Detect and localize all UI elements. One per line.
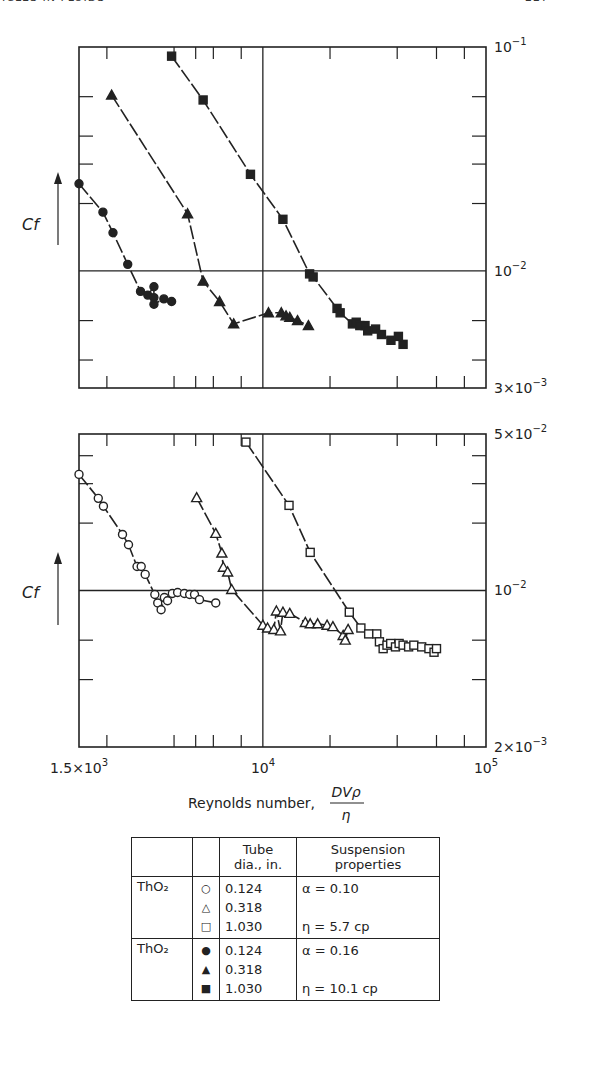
circle-marker-icon xyxy=(124,260,132,268)
legend-header-symbol xyxy=(193,838,220,877)
open-triangle-icon: △ xyxy=(198,898,214,917)
circle-marker-icon xyxy=(151,590,159,598)
square-marker-icon xyxy=(285,501,293,509)
legend-header-material xyxy=(132,838,193,877)
square-marker-icon xyxy=(168,52,176,60)
triangle-marker-icon xyxy=(217,548,227,557)
series-open-triangle xyxy=(192,493,353,645)
triangle-marker-icon xyxy=(192,493,202,502)
square-marker-icon xyxy=(365,630,373,638)
bottom-panel xyxy=(75,434,486,747)
y-axis-label: Cf xyxy=(22,583,41,602)
triangle-marker-icon xyxy=(183,209,193,218)
marker-symbols: ● ▲ ■ xyxy=(193,939,220,1001)
circle-marker-icon xyxy=(75,470,83,478)
legend-header-diameter: Tube dia., in. xyxy=(220,838,297,877)
circle-marker-icon xyxy=(119,530,127,538)
x-tick-label: 104 xyxy=(251,757,275,776)
circle-marker-icon xyxy=(125,541,133,549)
circle-marker-icon xyxy=(99,502,107,510)
legend-header-properties: Suspension properties xyxy=(297,838,440,877)
triangle-marker-icon xyxy=(343,624,353,633)
square-marker-icon xyxy=(246,170,254,178)
circle-marker-icon xyxy=(75,180,83,188)
y-tick-label: 10−1 xyxy=(494,36,527,55)
square-marker-icon xyxy=(279,215,287,223)
square-marker-icon xyxy=(336,309,344,317)
square-marker-icon xyxy=(394,332,402,340)
series-filled-circle xyxy=(75,180,176,308)
y-tick-label: 5×10−2 xyxy=(494,423,547,442)
top-panel xyxy=(75,47,486,388)
y-axis-label: Cf xyxy=(22,215,41,234)
suspension-properties: α = 0.10 η = 5.7 cp xyxy=(297,877,440,939)
circle-marker-icon xyxy=(157,606,165,614)
square-marker-icon xyxy=(373,630,381,638)
triangle-marker-icon xyxy=(211,528,221,537)
circle-marker-icon xyxy=(109,229,117,237)
y-tick-label: 2×10−3 xyxy=(494,736,547,755)
series-filled-square xyxy=(168,52,407,348)
square-marker-icon xyxy=(399,340,407,348)
square-marker-icon xyxy=(345,608,353,616)
material-label: ThO₂ xyxy=(132,877,193,939)
open-square-icon: □ xyxy=(198,917,214,936)
circle-marker-icon xyxy=(94,494,102,502)
filled-circle-icon: ● xyxy=(198,941,214,960)
circle-marker-icon xyxy=(164,597,172,605)
x-axis-fraction-numerator: DVρ xyxy=(331,784,360,800)
y-tick-label: 3×10−3 xyxy=(494,377,547,396)
circle-marker-icon xyxy=(137,562,145,570)
square-marker-icon xyxy=(199,96,207,104)
open-circle-icon: ○ xyxy=(198,879,214,898)
material-label: ThO₂ xyxy=(132,939,193,1001)
circle-marker-icon xyxy=(150,283,158,291)
friction-factor-chart: 10−110−23×10−35×10−210−22×10−31.5×103104… xyxy=(0,0,589,830)
triangle-marker-icon xyxy=(303,321,313,330)
legend-row-group-2: ThO₂ ● ▲ ■ 0.124 0.318 1.030 α = 0.16 η … xyxy=(132,939,440,1001)
square-marker-icon xyxy=(309,273,317,281)
tube-diameters: 0.124 0.318 1.030 xyxy=(220,939,297,1001)
circle-marker-icon xyxy=(99,208,107,216)
square-marker-icon xyxy=(242,438,250,446)
circle-marker-icon xyxy=(168,298,176,306)
series-open-circle xyxy=(75,470,220,613)
triangle-marker-icon xyxy=(198,276,208,285)
square-marker-icon xyxy=(377,331,385,339)
legend-row-group-1: ThO₂ ○ △ □ 0.124 0.318 1.030 α = 0.10 η … xyxy=(132,877,440,939)
circle-marker-icon xyxy=(150,300,158,308)
x-axis-label: Reynolds number, xyxy=(188,795,315,811)
y-tick-label: 10−2 xyxy=(494,579,527,598)
filled-square-icon: ■ xyxy=(198,979,214,998)
x-tick-label: 1.5×103 xyxy=(50,757,108,776)
suspension-properties: α = 0.16 η = 10.1 cp xyxy=(297,939,440,1001)
filled-triangle-icon: ▲ xyxy=(198,960,214,979)
triangle-marker-icon xyxy=(107,90,117,99)
circle-marker-icon xyxy=(195,596,203,604)
x-axis-fraction-denominator: η xyxy=(342,807,351,823)
series-open-square xyxy=(242,438,441,656)
square-marker-icon xyxy=(306,548,314,556)
x-tick-label: 105 xyxy=(474,757,498,776)
legend-table: Tube dia., in. Suspension properties ThO… xyxy=(131,837,440,1001)
square-marker-icon xyxy=(364,327,372,335)
circle-marker-icon xyxy=(160,295,168,303)
marker-symbols: ○ △ □ xyxy=(193,877,220,939)
tube-diameters: 0.124 0.318 1.030 xyxy=(220,877,297,939)
square-marker-icon xyxy=(410,641,418,649)
triangle-marker-icon xyxy=(227,585,237,594)
y-tick-label: 10−2 xyxy=(494,260,527,279)
square-marker-icon xyxy=(432,645,440,653)
square-marker-icon xyxy=(357,624,365,632)
circle-marker-icon xyxy=(141,570,149,578)
circle-marker-icon xyxy=(212,599,220,607)
